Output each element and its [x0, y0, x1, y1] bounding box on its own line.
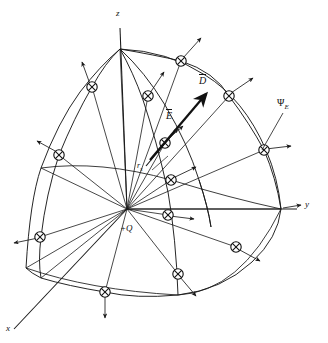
marker-upper-mid [143, 91, 153, 101]
d-vector-text: D [199, 75, 206, 86]
ray-2 [127, 96, 148, 209]
marker-left-mid [54, 150, 64, 160]
flux-arrow-4 [231, 78, 253, 93]
radius-subscript-text: s [140, 166, 142, 172]
flux-arrow-3 [82, 62, 90, 84]
ray-11 [127, 209, 236, 247]
e-vector-arrow [146, 128, 178, 166]
coordinate-axes [14, 28, 297, 329]
ray-6 [59, 155, 127, 209]
ray-3 [92, 87, 127, 209]
ray-5 [127, 143, 165, 209]
marker-center-right [166, 175, 176, 185]
flux-arrow-14 [283, 205, 301, 208]
psi-subscript-text: E [284, 103, 288, 111]
marker-z-upper-right [176, 56, 186, 66]
physics-figure-container: z y x D E ΨE rs +Q [0, 0, 328, 343]
flux-arrow-6 [37, 141, 57, 152]
d-vector-line [150, 94, 206, 160]
ray-16 [41, 168, 127, 209]
arc-meridian-mid-3 [40, 49, 121, 278]
arc-meridian-mid-1b [199, 180, 211, 227]
flux-arrow-10 [14, 238, 38, 243]
psi-leader-line [262, 113, 283, 150]
psi-leader [262, 113, 283, 150]
e-vector-text: E [166, 110, 172, 121]
marker-right-upper [224, 91, 234, 101]
point-charge-label: +Q [120, 224, 133, 233]
flux-arrows-outward [14, 38, 301, 318]
ray-13 [105, 209, 127, 292]
flux-psi-label: ΨE [277, 98, 289, 111]
ray-18 [120, 49, 127, 209]
x-axis-label: x [6, 324, 10, 333]
marker-lower-left [35, 232, 45, 242]
flux-arrow-7 [266, 146, 291, 149]
flux-arrow-2 [150, 72, 164, 93]
radius-label: rs [137, 162, 142, 172]
flux-arrow-1 [183, 38, 201, 58]
flux-diagram-svg [0, 0, 328, 343]
y-axis-label: y [305, 200, 309, 209]
marker-bottom-mid [173, 269, 183, 279]
arc-outer-to-x [26, 268, 41, 278]
latitude-line-mid [41, 166, 281, 209]
marker-lower-right [231, 242, 241, 252]
flux-density-vector-label: D [199, 74, 206, 86]
flux-markers-group [35, 56, 269, 297]
flux-arrow-11 [238, 249, 260, 261]
flux-arrow-8 [173, 167, 196, 178]
ray-14 [41, 209, 127, 278]
flux-arrow-9 [170, 216, 194, 219]
z-axis-label: z [116, 9, 120, 18]
arc-meridian-mid-2 [120, 49, 178, 295]
d-vector-arrow [150, 94, 206, 160]
electric-field-vector-label: E [166, 109, 172, 121]
e-vector-line [146, 128, 178, 166]
marker-upper-left [87, 82, 97, 92]
marker-lower-center [163, 210, 173, 220]
marker-bottom-left [100, 287, 110, 297]
ray-9 [127, 209, 168, 215]
